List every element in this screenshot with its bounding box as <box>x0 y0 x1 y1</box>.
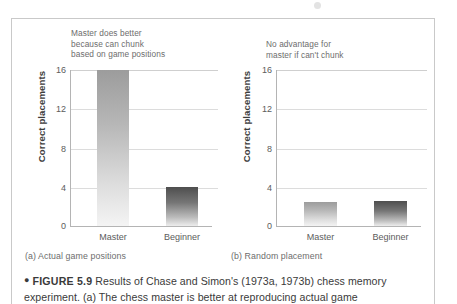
chart-a-annotation: Master does better because can chunk bas… <box>71 28 165 60</box>
chart-a-ytick-16: 16 <box>56 65 66 75</box>
figure-caption: ●FIGURE 5.9 Results of Chase and Simon's… <box>24 272 422 304</box>
chart-a-xtick-master: Master <box>99 232 127 242</box>
chart-b-ytick-12: 12 <box>262 104 272 114</box>
chart-b-ytick-4: 4 <box>267 183 272 193</box>
figure-number-label: FIGURE 5.9 <box>33 275 93 287</box>
chart-b-gridline-0: 0 <box>277 226 427 227</box>
chart-a-y-axis-title: Correct placements <box>36 62 47 172</box>
chart-b-ytick-8: 8 <box>267 144 272 154</box>
chart-b-y-axis-title: Correct placements <box>241 62 252 172</box>
chart-b-plot-wrap: 16 12 8 4 0 <box>276 70 421 227</box>
chart-a-plot-area: 16 12 8 4 0 <box>70 70 212 227</box>
chart-a-plot-wrap: 16 12 8 4 0 <box>70 70 212 227</box>
chart-a-bar-master[interactable] <box>97 70 129 226</box>
chart-a-xtick-beginner: Beginner <box>164 232 200 242</box>
chart-b-bar-beginner[interactable] <box>374 201 407 226</box>
figure-panel: Master does better because can chunk bas… <box>11 18 435 304</box>
chart-b-ytick-0: 0 <box>267 221 272 231</box>
chart-a-bar-beginner[interactable] <box>166 187 198 226</box>
chart-a-ytick-4: 4 <box>61 183 66 193</box>
chart-b-bars <box>277 70 421 226</box>
chart-b-xtick-beginner: Beginner <box>372 232 408 242</box>
chart-a-ytick-12: 12 <box>56 104 66 114</box>
chart-a-ytick-8: 8 <box>61 144 66 154</box>
chart-panel-a: Master does better because can chunk bas… <box>14 19 226 247</box>
bullet-icon: ● <box>24 275 30 285</box>
chart-a-bars <box>71 70 212 226</box>
chart-panel-b: No advantage for master if can't chunk C… <box>224 19 436 247</box>
chart-b-annotation: No advantage for master if can't chunk <box>266 39 344 60</box>
chart-a-gridline-0: 0 <box>71 226 218 227</box>
charts-area: Master does better because can chunk bas… <box>12 19 436 247</box>
chart-b-bar-master[interactable] <box>304 202 337 226</box>
chart-b-ytick-16: 16 <box>262 65 272 75</box>
chart-b-plot-area: 16 12 8 4 0 <box>276 70 421 227</box>
scan-artifact <box>314 2 321 9</box>
chart-b-xtick-master: Master <box>307 232 335 242</box>
chart-a-subcaption: (a) Actual game positions <box>25 251 126 261</box>
chart-b-subcaption: (b) Random placement <box>231 251 322 261</box>
chart-a-ytick-0: 0 <box>61 221 66 231</box>
